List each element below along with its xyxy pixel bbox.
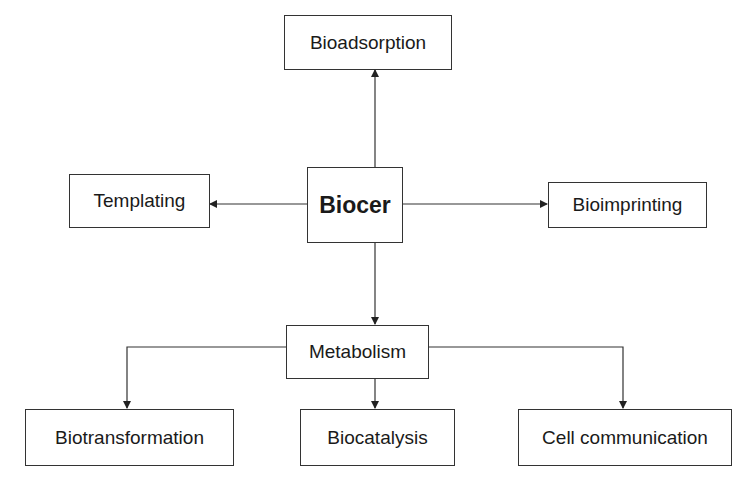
node-label: Bioimprinting [573, 194, 683, 216]
node-bioadsorption: Bioadsorption [284, 15, 452, 70]
node-biocer: Biocer [307, 167, 403, 243]
node-bioimprinting: Bioimprinting [548, 182, 707, 228]
node-biocatalysis: Biocatalysis [300, 409, 455, 466]
node-label: Bioadsorption [310, 32, 426, 54]
node-label: Metabolism [309, 341, 406, 363]
node-label: Templating [94, 190, 186, 212]
node-cell-communication: Cell communication [518, 409, 732, 466]
node-metabolism: Metabolism [286, 325, 429, 379]
node-label: Cell communication [542, 427, 708, 449]
node-label: Biocatalysis [327, 427, 427, 449]
node-templating: Templating [69, 174, 210, 228]
node-label: Biocer [319, 192, 391, 219]
node-biotransformation: Biotransformation [25, 409, 234, 466]
node-label: Biotransformation [55, 427, 204, 449]
